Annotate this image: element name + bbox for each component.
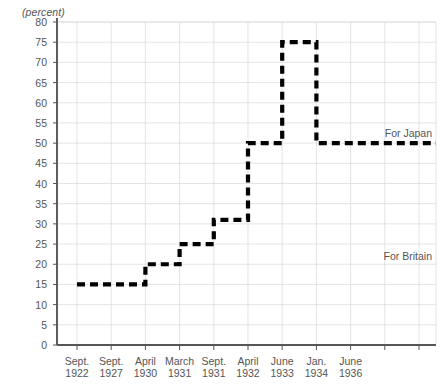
- step-chart: (percent) 051015202530354045505560657075…: [0, 0, 446, 387]
- y-tick-label: 20: [23, 259, 47, 269]
- x-tick-label: June1936: [323, 355, 379, 379]
- y-tick-label: 35: [23, 199, 47, 209]
- x-tick-month: June: [323, 355, 379, 367]
- y-tick-label: 10: [23, 300, 47, 310]
- y-tick-label: 40: [23, 179, 47, 189]
- y-tick-label: 60: [23, 98, 47, 108]
- series-label-for-britain: For Britain: [316, 250, 432, 262]
- y-tick-label: 5: [23, 320, 47, 330]
- y-tick-label: 65: [23, 78, 47, 88]
- y-tick-label: 30: [23, 219, 47, 229]
- series-label-for-japan: For Japan: [316, 127, 432, 139]
- y-tick-label: 70: [23, 57, 47, 67]
- y-tick-label: 75: [23, 37, 47, 47]
- y-tick-label: 50: [23, 138, 47, 148]
- y-tick-label: 55: [23, 118, 47, 128]
- plot-area: [0, 0, 446, 387]
- y-tick-label: 15: [23, 279, 47, 289]
- horizontal-gridlines: [57, 22, 436, 325]
- y-tick-label: 0: [23, 340, 47, 350]
- y-tick-label: 25: [23, 239, 47, 249]
- y-tick-label: 80: [23, 17, 47, 27]
- axis-ticks: [53, 22, 419, 350]
- x-tick-year: 1936: [323, 367, 379, 379]
- y-tick-label: 45: [23, 158, 47, 168]
